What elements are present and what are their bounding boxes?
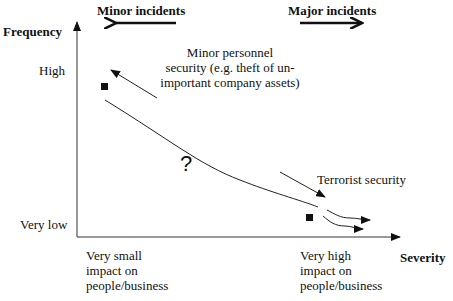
x-axis-label: Severity (400, 251, 445, 264)
question-mark: ? (180, 153, 192, 175)
terrorist-marker (306, 214, 313, 221)
wavy-arrow-upper (327, 210, 370, 220)
minor-personnel-annotation: Minor personnel security (e.g. theft of … (140, 45, 320, 90)
y-axis-label: Frequency (3, 25, 62, 38)
x-tick-right: Very high impact on people/business (300, 248, 382, 293)
minor-incidents-label: Minor incidents (97, 4, 185, 17)
minor-incident-marker (101, 83, 108, 90)
terrorist-annotation: Terrorist security (317, 173, 406, 186)
wavy-arrow-lower (323, 216, 363, 229)
y-tick-high: High (39, 64, 65, 77)
y-tick-very-low: Very low (20, 218, 67, 231)
major-incidents-label: Major incidents (288, 4, 376, 17)
trend-curve (105, 100, 318, 207)
x-tick-left: Very small impact on people/business (86, 248, 168, 293)
